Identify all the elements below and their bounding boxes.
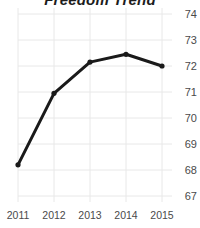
y-axis-tick-label: 74: [185, 9, 197, 20]
y-axis-tick-label: 69: [185, 139, 197, 150]
y-axis-tick-label: 72: [185, 61, 197, 72]
y-axis-tick-label: 67: [185, 191, 197, 202]
x-axis-tick-label: 2011: [7, 210, 30, 221]
x-axis-tick-label: 2014: [114, 210, 137, 221]
vertical-gridlines: [18, 8, 162, 202]
data-point-2015: [159, 63, 164, 68]
data-point-2012: [51, 91, 56, 96]
x-axis-tick-label: 2012: [42, 210, 65, 221]
data-point-2011: [15, 162, 20, 167]
y-axis-tick-label: 73: [185, 35, 197, 46]
horizontal-gridlines: [18, 14, 172, 196]
y-axis-tick-label: 70: [185, 113, 197, 124]
x-axis-tick-label: 2013: [78, 210, 101, 221]
data-point-2014: [123, 52, 128, 57]
line-chart: Freedom Trend 74 73 72: [0, 0, 200, 228]
data-point-2013: [87, 60, 92, 65]
plot-area: [0, 0, 200, 228]
x-axis-tick-label: 2015: [150, 210, 173, 221]
y-axis-tick-label: 68: [185, 165, 197, 176]
y-axis-tick-label: 71: [185, 87, 197, 98]
